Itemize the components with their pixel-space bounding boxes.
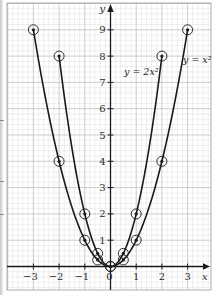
grid-major bbox=[7, 3, 211, 290]
y-axis-arrow-icon bbox=[107, 4, 113, 12]
x-tick-label: −1 bbox=[74, 271, 89, 282]
tick-labels: −3−2−10123123456789 bbox=[23, 24, 191, 281]
curve-label-x-squared: y = x² bbox=[182, 54, 212, 65]
y-tick-label: 5 bbox=[99, 130, 105, 141]
x-tick-label: 1 bbox=[133, 271, 139, 282]
curve-label-2x-squared: y = 2x² bbox=[123, 66, 159, 77]
data-point-marker bbox=[93, 248, 103, 258]
parabola-chart: −3−2−10123123456789 y x y = 2x² y = x² bbox=[0, 0, 215, 295]
plot-frame bbox=[7, 3, 211, 290]
y-tick-label: 2 bbox=[99, 208, 105, 219]
data-point-marker bbox=[118, 248, 128, 258]
x-axis-label: x bbox=[202, 271, 208, 282]
axes bbox=[7, 4, 210, 290]
x-tick-label: 0 bbox=[106, 271, 112, 282]
x-tick-label: 2 bbox=[159, 271, 165, 282]
y-tick-label: 9 bbox=[99, 24, 105, 35]
grid-minor bbox=[7, 3, 211, 290]
y-tick-label: 1 bbox=[99, 235, 105, 246]
y-tick-label: 3 bbox=[99, 182, 105, 193]
y-tick-label: 4 bbox=[99, 156, 105, 167]
y-tick-label: 6 bbox=[99, 103, 105, 114]
x-tick-label: 3 bbox=[184, 271, 190, 282]
x-tick-label: −3 bbox=[23, 271, 38, 282]
y-tick-label: 7 bbox=[99, 77, 105, 88]
x-axis-arrow-icon bbox=[203, 263, 210, 269]
y-tick-label: 8 bbox=[99, 51, 105, 62]
y-axis-label: y bbox=[99, 3, 106, 14]
x-tick-label: −2 bbox=[49, 271, 64, 282]
